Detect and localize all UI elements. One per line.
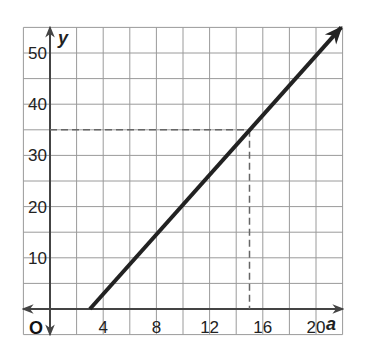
y-tick-label: 40 [28,95,47,114]
y-tick-label: 20 [28,198,47,217]
x-axis-label: a [326,314,336,334]
y-tick-label: 50 [28,44,47,63]
x-tick-label: 20 [307,318,326,337]
y-axis-label: y [57,28,69,48]
origin-label: O [29,318,43,338]
line-chart: 481216201020304050Oay [0,0,366,362]
dashed-guides [50,130,250,309]
x-tick-label: 12 [200,318,219,337]
grid [23,27,342,334]
x-tick-label: 4 [98,318,107,337]
series-line [90,27,341,309]
y-tick-label: 30 [28,146,47,165]
x-tick-label: 8 [152,318,161,337]
data-line [90,27,341,309]
x-tick-label: 16 [253,318,272,337]
y-tick-label: 10 [28,249,47,268]
